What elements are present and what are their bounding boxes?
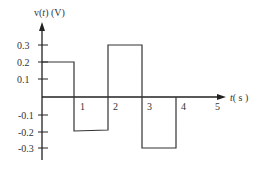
waveform-chart: 0.3 0.2 0.1 -0.1 -0.2 -0.3 1 2 3 4 5 v(t… [0,0,260,170]
ytick-label: 0.3 [17,40,30,51]
ytick-label: -0.3 [18,143,34,154]
x-axis-arrow-icon [217,94,226,100]
xtick-label: 5 [215,101,220,112]
xtick-label: 3 [147,101,152,112]
xtick-label: 4 [181,101,186,112]
ytick-label: 0.2 [17,57,30,68]
xtick-label: 1 [80,101,85,112]
ytick-label: -0.2 [18,127,34,138]
x-axis-label: t( s ) [230,92,248,104]
ytick-label: 0.1 [17,74,30,85]
ytick-label: -0.1 [18,110,34,121]
xtick-label: 2 [113,101,118,112]
y-axis-label: v(t) (V) [34,7,65,19]
y-axis-arrow-icon [39,22,45,31]
